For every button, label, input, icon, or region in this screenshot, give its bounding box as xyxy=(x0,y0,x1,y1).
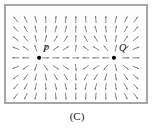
field-arrow-head xyxy=(45,16,47,18)
charge-dot-p xyxy=(37,56,41,60)
field-arrow-head xyxy=(75,36,77,38)
field-arrow-head xyxy=(105,16,107,18)
field-arrow-head xyxy=(93,57,95,59)
figure-container: P Q (C) xyxy=(0,0,154,128)
field-arrow-head xyxy=(57,57,59,59)
field-arrow-head xyxy=(85,16,87,18)
field-arrow-head xyxy=(45,88,47,90)
field-arrow-head xyxy=(77,57,79,59)
field-arrow-head xyxy=(55,98,57,100)
field-arrow-head xyxy=(47,57,49,59)
field-arrow-head xyxy=(75,88,77,90)
field-arrow-head xyxy=(75,16,77,18)
field-arrow-head xyxy=(75,78,77,80)
field-arrow-head xyxy=(55,16,57,18)
field-arrow-head xyxy=(67,57,69,59)
field-arrow-head xyxy=(23,57,25,59)
field-arrow-head xyxy=(105,98,107,100)
field-arrow-group xyxy=(13,16,139,99)
charge-dot-q xyxy=(112,56,116,60)
vector-field-panel: P Q xyxy=(4,4,148,104)
field-arrow-head xyxy=(127,57,129,59)
field-arrow-head xyxy=(75,26,77,28)
field-arrow-head xyxy=(95,16,97,18)
field-arrow-head xyxy=(103,57,105,59)
field-arrow-head xyxy=(75,98,77,100)
field-arrow-head xyxy=(45,26,47,28)
field-arrow-head xyxy=(13,57,15,59)
field-arrow-head xyxy=(45,98,47,100)
figure-caption: (C) xyxy=(0,110,154,122)
field-arrow-head xyxy=(34,69,36,71)
field-arrow-head xyxy=(85,98,87,100)
field-arrow-head xyxy=(83,57,85,59)
vector-field-svg xyxy=(6,6,146,102)
field-arrow-head xyxy=(34,45,36,47)
charge-label-q: Q xyxy=(119,43,126,53)
field-arrow-head xyxy=(95,98,97,100)
field-arrow-head xyxy=(137,57,139,59)
charge-label-p: P xyxy=(43,44,49,54)
